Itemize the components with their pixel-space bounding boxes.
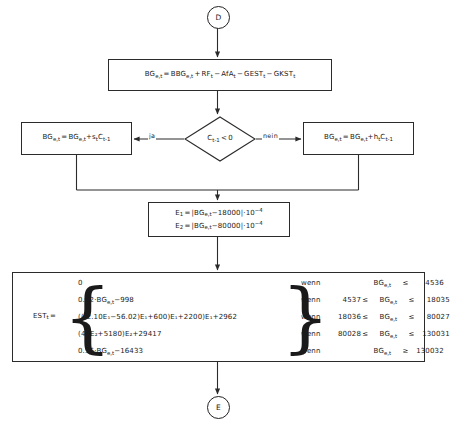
process-box-bg-no-branch: BGe,t=BGe,t+htCt-1 (303, 122, 414, 155)
bg-term-4-sub: t (293, 72, 295, 78)
bg-no-factor-sub: t-1 (385, 136, 393, 142)
connector-d-label: D (215, 13, 221, 22)
est-cond-1-var-sub: e,t (390, 298, 397, 304)
est-case-3-text: (42E₂+5180)E₂+29417 (78, 330, 162, 338)
process-box-bg-definition: BGe,t=BBGe,t+RFt−AfAt−GESTt−GKSTt (108, 59, 332, 91)
est-cond-2-hi: 80027 (416, 314, 450, 321)
est-cond-2-cmp-hi: ≤ (407, 314, 415, 321)
edge-label-ja: ja (148, 132, 156, 140)
est-cond-3-cmp-hi: ≤ (407, 331, 415, 338)
formula-bg-yes: BGe,t=BGe,t+stCt-1 (42, 134, 110, 142)
bg-term-4-op: − (265, 70, 273, 78)
e2-var-sub: e,t (205, 224, 212, 230)
est-cond-0-var: BG (374, 279, 384, 287)
est-case-1-tail: −998 (114, 296, 134, 304)
bg-lhs: BG (145, 70, 155, 78)
bg-no-eq: = (342, 133, 350, 141)
bg-term-3-op: − (236, 70, 244, 78)
bg-term-4: GKST (274, 70, 293, 78)
bg-eq: = (162, 70, 170, 78)
est-eq: = (49, 312, 57, 320)
est-cond-2-var-sub: e,t (390, 315, 397, 321)
bg-no-lhs: BG (324, 133, 334, 141)
est-case-row: 0.56·BGe,t−16433 (78, 348, 237, 356)
e1-base: 10 (246, 209, 255, 217)
est-condition-row: wennBGe,t≥130032 (301, 348, 450, 356)
decision-value: 0 (228, 134, 233, 142)
est-condition-row: wenn80028≤BGe,t≤130031 (301, 331, 450, 339)
bg-no-rhs-sub: e,t (360, 136, 367, 142)
decision-var-sub: t-1 (212, 136, 220, 142)
e1-offset: −18000 (212, 209, 241, 217)
e1-var: BG (194, 209, 204, 217)
est-head-name: EST (33, 312, 47, 320)
e2-offset: −80000 (212, 222, 241, 230)
e1-eq: = (183, 209, 191, 217)
est-cond-2-wenn: wenn (301, 314, 325, 321)
est-cond-1-cmp-lo: ≤ (361, 297, 369, 304)
formula-bg-definition: BGe,t=BBGe,t+RFt−AfAt−GESTt−GKSTt (145, 71, 296, 79)
est-cond-1-hi: 18035 (416, 297, 450, 304)
est-condition-row: wenn18036≤BGe,t≤80027 (301, 314, 450, 322)
est-cond-1-lo: 4537 (325, 297, 361, 304)
formula-e2: E2=|BGe,t−80000|·10−4 (175, 221, 263, 231)
est-cond-4-wenn: wenn (301, 348, 325, 355)
est-cond-3-var-sub: e,t (390, 332, 397, 338)
est-case-list: 0 0.22·BGe,t−998 (((2.10E₁−56.02)E₁+600)… (78, 280, 237, 356)
process-box-est-piecewise: ESTt= { } 0 0.22·BGe,t−998 (((2.10E₁−56.… (12, 272, 425, 362)
connector-circle-e: E (207, 396, 230, 419)
edge-label-nein: nein (262, 132, 279, 140)
est-cond-2-var: BG (380, 313, 390, 321)
est-case-row: 0 (78, 280, 237, 287)
est-cond-2-cmp-lo: ≤ (361, 314, 369, 321)
e1-exp: −4 (255, 207, 263, 213)
bg-no-lhs-sub: e,t (335, 136, 342, 142)
est-case-2-text: (((2.10E₁−56.02)E₁+600)E₁+2200)E₁+2962 (78, 313, 237, 321)
est-case-4-text: 0.56·BG (78, 347, 107, 355)
bg-term-0: BBG (171, 70, 186, 78)
formula-bg-no: BGe,t=BGe,t+htCt-1 (324, 134, 393, 142)
bg-yes-lhs: BG (42, 133, 52, 141)
bg-yes-factor-sub: t-1 (103, 136, 111, 142)
formula-e1: E1=|BGe,t−18000|·10−4 (175, 208, 263, 218)
e1-var-sub: e,t (205, 211, 212, 217)
est-case-0-text: 0 (78, 279, 83, 287)
decision-condition: Ct-1<0 (207, 135, 233, 143)
est-cond-3-wenn: wenn (301, 331, 325, 338)
est-head: ESTt= (33, 313, 57, 321)
est-cond-2-lo: 18036 (325, 314, 361, 321)
bg-term-2: AfA (221, 70, 233, 78)
est-case-4-tail: −16433 (114, 347, 143, 355)
e2-eq: = (183, 222, 191, 230)
est-cond-4-var-sub: e,t (384, 349, 391, 355)
e2-exp: −4 (255, 220, 263, 226)
est-cond-0-cmp-hi: ≤ (401, 280, 409, 287)
est-cond-3-var: BG (380, 330, 390, 338)
est-cond-0-hi: 4536 (410, 280, 444, 287)
decision-comparator: < (220, 134, 228, 142)
process-box-bg-yes-branch: BGe,t=BGe,t+stCt-1 (21, 122, 132, 155)
bg-yes-rhs: BG (68, 133, 78, 141)
est-cond-0-wenn: wenn (301, 280, 325, 287)
est-condition-list: wennBGe,t≤4536 wenn4537≤BGe,t≤18035 wenn… (301, 280, 450, 356)
est-cond-1-wenn: wenn (301, 297, 325, 304)
bg-no-rhs: BG (350, 133, 360, 141)
e2-base: 10 (246, 222, 255, 230)
est-condition-row: wennBGe,t≤4536 (301, 280, 450, 288)
process-box-e1-e2-definitions: E1=|BGe,t−18000|·10−4 E2=|BGe,t−80000|·1… (148, 202, 290, 237)
connector-circle-d: D (207, 6, 230, 29)
est-cond-4-var: BG (374, 347, 384, 355)
est-case-row: 0.22·BGe,t−998 (78, 297, 237, 305)
est-cond-3-cmp-lo: ≤ (361, 331, 369, 338)
decision-diamond-c-negative: Ct-1<0 (184, 116, 256, 162)
est-cond-1-cmp-hi: ≤ (407, 297, 415, 304)
est-cond-3-lo: 80028 (325, 331, 361, 338)
est-case-row: (((2.10E₁−56.02)E₁+600)E₁+2200)E₁+2962 (78, 314, 237, 321)
est-case-1-text: 0.22·BG (78, 296, 107, 304)
bg-yes-lhs-sub: e,t (53, 136, 60, 142)
est-cond-0-var-sub: e,t (384, 282, 391, 288)
bg-term-3: GEST (244, 70, 263, 78)
est-cond-3-hi: 130031 (416, 331, 450, 338)
est-cond-4-cmp-hi: ≥ (401, 348, 409, 355)
